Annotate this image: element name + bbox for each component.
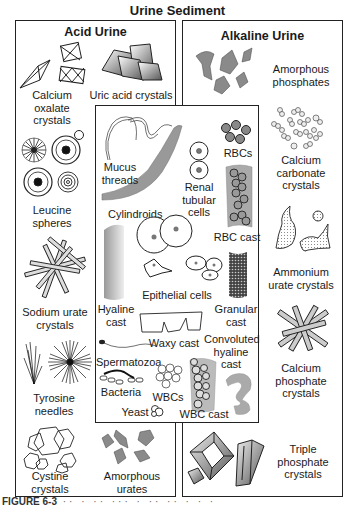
triple-phosphate-label: Triple phosphate crystals	[272, 443, 334, 481]
tyrosine-needles-icon	[22, 340, 92, 390]
renal-tubular-cells-icon	[187, 141, 211, 181]
wbc-cast-icon	[186, 356, 218, 414]
uric-acid-label: Uric acid crystals	[88, 89, 174, 102]
wbc-cast-label: WBC cast	[176, 408, 232, 421]
bacteria-label: Bacteria	[98, 386, 144, 399]
diagram-title: Urine Sediment	[0, 3, 355, 18]
amorphous-urates-label: Amorphous urates	[100, 470, 164, 495]
spermatozoa-label: Spermatozoa	[96, 356, 160, 369]
sodium-urate-label: Sodium urate crystals	[18, 306, 92, 331]
calcium-phosphate-crystals-icon	[272, 300, 334, 358]
calcium-phosphate-label: Calcium phosphate crystals	[268, 362, 334, 400]
rbc-cast-icon	[224, 163, 254, 229]
bacteria-icon	[98, 368, 144, 386]
epithelial-cells-label: Epithelial cells	[140, 289, 214, 302]
calcium-oxalate-label: Calcium oxalate crystals	[26, 89, 78, 127]
leucine-spheres-label: Leucine spheres	[22, 204, 82, 229]
yeast-label: Yeast	[120, 406, 150, 419]
epithelial-cells-icon	[136, 215, 224, 281]
rbcs-icon	[220, 120, 252, 144]
figure-caption: FIGURE 6-3 ·· · ·· ··· · ·· ·· · · ·	[2, 496, 216, 507]
cystine-crystals-label: Cystine crystals	[24, 470, 76, 495]
ammonium-urate-label: Ammonium urate crystals	[264, 266, 338, 291]
amorphous-urates-icon	[100, 428, 164, 468]
ammonium-urate-crystals-icon	[268, 204, 334, 260]
wbcs-label: WBCs	[150, 391, 186, 404]
granular-cast-icon	[228, 250, 248, 300]
acid-urine-title: Acid Urine	[16, 25, 175, 39]
spermatozoa-icon	[98, 338, 158, 352]
wbcs-icon	[156, 364, 184, 388]
triple-phosphate-crystals-icon	[186, 428, 270, 490]
leucine-spheres-icon	[20, 130, 90, 200]
mucus-threads-label: Mucus threads	[98, 161, 142, 186]
mucus-threads-cylindroid-icon	[98, 110, 188, 200]
calcium-carbonate-crystals-icon	[270, 106, 330, 156]
renal-tubular-cells-label: Renal tubular cells	[180, 181, 218, 219]
hyaline-cast-label: Hyaline cast	[96, 303, 136, 328]
calcium-oxalate-crystals-icon	[18, 40, 88, 90]
sodium-urate-crystals-icon	[22, 237, 90, 302]
waxy-cast-icon	[138, 310, 204, 334]
alkaline-urine-title: Alkaline Urine	[183, 29, 342, 43]
hyaline-cast-icon	[102, 222, 126, 302]
amorphous-phosphates-icon	[192, 46, 260, 98]
cystine-crystals-icon	[20, 425, 86, 473]
granular-cast-label: Granular cast	[214, 303, 258, 328]
rbcs-label: RBCs	[222, 147, 254, 160]
yeast-icon	[150, 404, 164, 418]
uric-acid-crystals-icon	[100, 42, 165, 84]
calcium-carbonate-label: Calcium carbonate crystals	[268, 154, 334, 192]
tyrosine-needles-label: Tyrosine needles	[24, 392, 84, 417]
amorphous-phosphates-label: Amorphous phosphates	[268, 63, 334, 88]
